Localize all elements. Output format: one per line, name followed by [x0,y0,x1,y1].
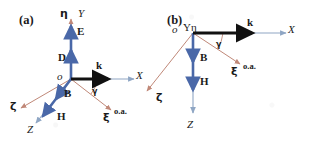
panel-a: (a) η Y X Z ζ ξ o.a. E D B H k o γ [0,0,155,142]
vector-label-E: E [77,26,84,37]
axis-label-x: X [136,70,143,81]
origin-label-b: o [172,24,178,35]
vector-label-k: k [96,60,102,71]
angle-label-gamma-b: γ [216,41,221,49]
vector-label-H: H [57,111,66,122]
axis-label-eta: η [60,8,68,19]
vector-label-D: D [58,52,66,63]
axis-label-xi: ξ [103,112,110,123]
panel-tag-a: (a) [19,14,34,27]
optical-axis-note: o.a. [243,62,256,71]
origin-axes-label-b: Yη [183,22,197,33]
axis-label-z: Z [187,119,193,130]
axis-label-zeta: ζ [10,101,17,112]
axis-label-z: Z [27,124,33,135]
angle-label-gamma-a: γ [92,88,97,96]
axis-label-xi: ξ [231,66,238,77]
vector-label-B: B [200,52,207,63]
panel-b: (b) o Yη X Z ζ ξ o.a. B H k γ [155,0,309,142]
axis-label-zeta: ζ [156,92,163,103]
axis-label-y: Y [78,8,84,19]
vector-label-H: H [200,76,209,87]
vector-label-B: B [64,88,71,99]
coordinate-system-figure: (a) η Y X Z ζ ξ o.a. E D B H k o γ [0,0,309,142]
axis-label-x: X [288,24,295,35]
vector-label-k: k [247,17,253,28]
axis-line-xi [71,79,111,110]
optical-axis-note: o.a. [114,107,127,116]
origin-label-a: o [57,71,63,82]
